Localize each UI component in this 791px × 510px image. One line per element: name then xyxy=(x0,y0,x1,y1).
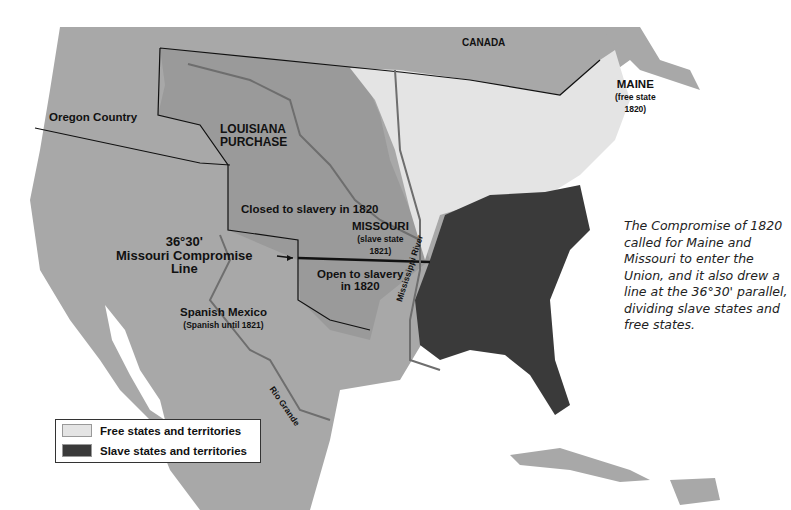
label-louisiana: LOUISIANAPURCHASE xyxy=(220,123,287,148)
label-closed-slavery: Closed to slavery in 1820 xyxy=(241,203,378,215)
label-missouri: MISSOURI(slave state1821) xyxy=(352,220,409,256)
label-maine: MAINE(free state1820) xyxy=(615,78,656,114)
legend-item-slave: Slave states and territories xyxy=(56,441,260,460)
label-open-slavery: Open to slaveryin 1820 xyxy=(317,268,403,292)
cuba xyxy=(510,448,650,482)
legend: Free states and territories Slave states… xyxy=(55,419,261,463)
label-compromise-line: 36°30'Missouri CompromiseLine xyxy=(116,235,253,276)
hispaniola xyxy=(670,478,720,505)
label-oregon: Oregon Country xyxy=(49,111,137,123)
slave-swatch xyxy=(62,444,92,457)
legend-item-free: Free states and territories xyxy=(56,421,260,440)
free-swatch xyxy=(62,424,92,437)
caption: The Compromise of 1820 called for Maine … xyxy=(624,218,791,334)
label-canada: CANADA xyxy=(462,38,505,49)
label-spanish-mexico: Spanish Mexico(Spanish until 1821) xyxy=(180,306,267,330)
